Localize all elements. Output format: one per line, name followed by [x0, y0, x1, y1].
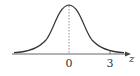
- axis-label-z: z: [128, 53, 135, 64]
- normal-curve-diagram: 0 3 z: [0, 0, 140, 76]
- tick-label-3: 3: [107, 57, 114, 70]
- tick-label-0: 0: [66, 57, 73, 70]
